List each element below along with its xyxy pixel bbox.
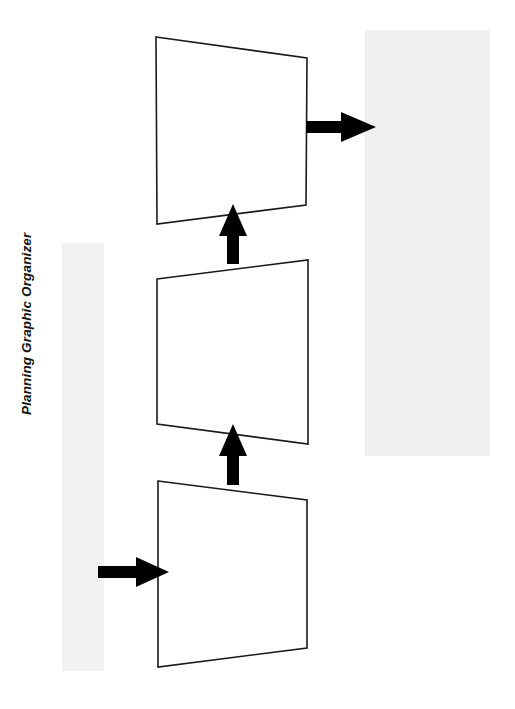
organizer-page: Planning Graphic Organizer (0, 0, 515, 709)
flow-box-middle[interactable] (157, 260, 308, 444)
arrow-right-icon-output (306, 112, 376, 142)
flow-box-bottom[interactable] (158, 481, 307, 667)
flowchart-canvas (0, 0, 515, 709)
flow-box-top[interactable] (156, 37, 307, 224)
